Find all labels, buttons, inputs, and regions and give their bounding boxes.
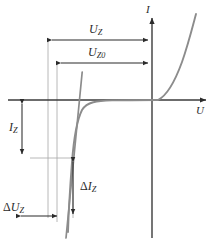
label-u-z0: UZ0 <box>88 45 105 60</box>
label-i-z-sub: Z <box>13 126 18 135</box>
iv-characteristic-svg <box>0 0 220 243</box>
axis-label-current: I <box>146 3 150 15</box>
label-delta-u-z-delta: Δ <box>3 200 11 214</box>
label-u-z0-sub: Z0 <box>97 51 106 60</box>
label-u-z-base: U <box>89 22 98 36</box>
label-u-z: UZ <box>89 22 102 37</box>
guide-lines <box>30 40 73 222</box>
axis-lines <box>8 18 206 238</box>
axis-label-voltage: U <box>196 104 204 116</box>
label-delta-u-z-sub: Z <box>19 206 24 215</box>
label-delta-i-z-sub: Z <box>92 185 97 194</box>
figure-canvas: I U UZ UZ0 IZ ΔIZ ΔUZ <box>0 0 220 243</box>
label-delta-i-z-delta: Δ <box>80 179 88 193</box>
label-u-z0-base: U <box>88 45 97 59</box>
tangent-line <box>66 72 82 238</box>
label-u-z-sub: Z <box>98 28 103 37</box>
label-delta-i-z: ΔIZ <box>80 179 96 194</box>
label-delta-u-z: ΔUZ <box>3 200 24 215</box>
label-i-z: IZ <box>9 120 18 135</box>
